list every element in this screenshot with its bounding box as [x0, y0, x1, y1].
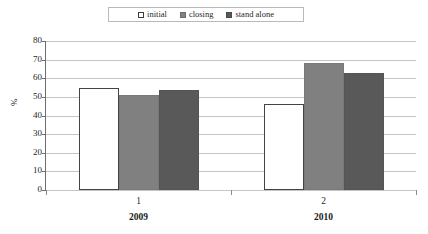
y-axis-tick-mark — [42, 190, 46, 191]
y-axis-tick-mark — [42, 134, 46, 135]
legend-item-closing: closing — [180, 10, 214, 19]
x-axis-category-label: 2 — [294, 196, 354, 206]
y-axis-tick-label: 80 — [10, 36, 42, 45]
plot-area — [46, 41, 416, 190]
bar-stand-alone-2 — [344, 73, 384, 190]
y-axis-tick-mark — [42, 97, 46, 98]
y-axis-tick-mark — [42, 153, 46, 154]
x-axis-group-label: 2010 — [284, 212, 364, 222]
y-axis-tick-labels: 80706050403020100 — [6, 0, 42, 234]
legend-label-stand-alone: stand alone — [235, 10, 273, 19]
page-bottom-edge — [0, 228, 428, 234]
gridline — [46, 41, 416, 42]
legend-label-initial: initial — [147, 10, 167, 19]
y-axis-tick-label: 50 — [10, 92, 42, 101]
y-axis-tick-mark — [42, 171, 46, 172]
y-axis-tick-mark — [42, 116, 46, 117]
y-axis-tick-label: 10 — [10, 166, 42, 175]
x-axis-category-label: 1 — [109, 196, 169, 206]
x-axis-edge-tick — [416, 190, 417, 195]
x-axis-edge-tick — [46, 190, 47, 195]
legend-item-stand-alone: stand alone — [226, 10, 273, 19]
y-axis-tick-label: 60 — [10, 73, 42, 82]
chart-legend: initial closing stand alone — [108, 7, 304, 22]
bar-closing-1 — [119, 95, 159, 190]
x-axis-group-label: 2009 — [99, 212, 179, 222]
gridline — [46, 60, 416, 61]
y-axis-tick-mark — [42, 78, 46, 79]
legend-label-closing: closing — [189, 10, 214, 19]
y-axis-tick-mark — [42, 60, 46, 61]
legend-swatch-initial-icon — [138, 12, 144, 18]
y-axis-tick-label: 70 — [10, 55, 42, 64]
y-axis-tick-mark — [42, 41, 46, 42]
bar-initial-2 — [264, 104, 304, 190]
bar-stand-alone-1 — [159, 90, 199, 190]
legend-swatch-closing-icon — [180, 12, 186, 18]
legend-item-initial: initial — [138, 10, 167, 19]
y-axis-tick-label: 20 — [10, 148, 42, 157]
y-axis-tick-label: 40 — [10, 111, 42, 120]
x-axis-group-separator — [231, 190, 232, 195]
bar-closing-2 — [304, 63, 344, 190]
bar-initial-1 — [79, 88, 119, 190]
y-axis-tick-label: 30 — [10, 129, 42, 138]
legend-swatch-stand-alone-icon — [226, 12, 232, 18]
y-axis-tick-label: 0 — [10, 185, 42, 194]
bar-chart: initial closing stand alone % 8070605040… — [0, 0, 428, 234]
